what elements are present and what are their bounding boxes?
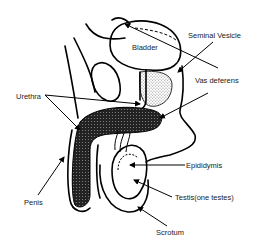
scrotum-shape xyxy=(100,165,149,212)
label-urethra: Urethra xyxy=(16,92,42,101)
anatomy-drawing xyxy=(65,18,195,212)
male-reproductive-diagram: Bladder Seminal Vesicle Vas deferens Ure… xyxy=(0,0,257,250)
label-testis: Testis(one testes) xyxy=(175,193,234,202)
pubic-bone-shape xyxy=(91,63,120,101)
label-seminal-vesicle: Seminal Vesicle xyxy=(188,31,241,40)
label-bladder: Bladder xyxy=(132,43,158,52)
label-scrotum: Scrotum xyxy=(156,228,184,237)
label-penis: Penis xyxy=(24,198,43,207)
label-epididymis: Epididymis xyxy=(186,161,223,170)
label-vas-deferens: Vas deferens xyxy=(195,76,239,85)
testis-shape xyxy=(112,145,147,199)
prostate-shape xyxy=(139,71,172,106)
